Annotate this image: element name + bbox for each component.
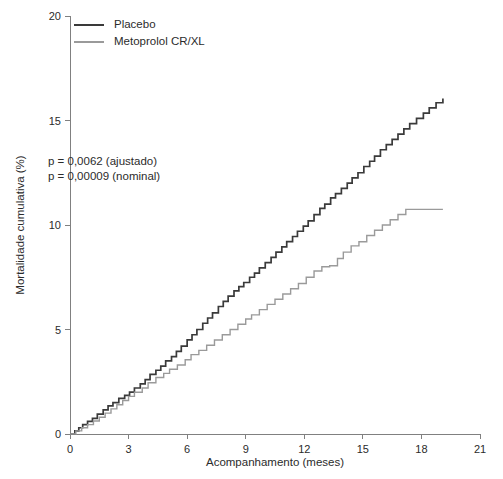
annotation-p-adjusted: p = 0,0062 (ajustado)	[48, 155, 157, 167]
y-tick-label: 20	[49, 10, 61, 22]
y-tick-label: 10	[49, 219, 61, 231]
y-tick-label: 0	[55, 428, 61, 440]
y-tick-label: 5	[55, 324, 61, 336]
legend-label-1: Placebo	[114, 18, 156, 30]
x-axis: 036912151821 Acompanhamento (meses)	[67, 434, 486, 468]
x-tick-label: 21	[474, 443, 486, 455]
x-tick-label: 9	[243, 443, 249, 455]
x-axis-ticks: 036912151821	[67, 434, 486, 455]
y-axis: 05101520 Mortalidade cumulativa (%)	[14, 10, 70, 440]
annotation-p-nominal: p = 0,00009 (nominal)	[48, 170, 160, 182]
x-tick-label: 15	[357, 443, 369, 455]
x-tick-label: 18	[415, 443, 427, 455]
x-tick-label: 6	[184, 443, 190, 455]
data-series-group	[70, 99, 443, 434]
x-tick-label: 0	[67, 443, 73, 455]
series-line-placebo	[70, 99, 443, 434]
legend-label-2: Metoprolol CR/XL	[114, 35, 205, 47]
y-axis-title: Mortalidade cumulativa (%)	[14, 155, 26, 295]
x-axis-title: Acompanhamento (meses)	[206, 456, 344, 468]
y-tick-label: 15	[49, 115, 61, 127]
chart-figure: 05101520 Mortalidade cumulativa (%) 0369…	[0, 0, 503, 479]
y-axis-ticks: 05101520	[49, 10, 70, 440]
p-value-annotations: p = 0,0062 (ajustado) p = 0,00009 (nomin…	[48, 155, 160, 182]
chart-legend: PlaceboMetoprolol CR/XL	[74, 18, 205, 47]
series-line-metoprolol-cr-xl	[70, 209, 443, 434]
x-tick-label: 3	[126, 443, 132, 455]
x-tick-label: 12	[298, 443, 310, 455]
kaplan-meier-chart: 05101520 Mortalidade cumulativa (%) 0369…	[0, 0, 503, 479]
